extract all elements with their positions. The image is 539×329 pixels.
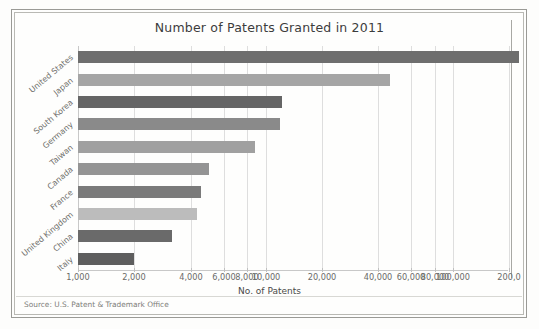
gridline <box>411 46 412 270</box>
x-tick-label: 4,000 <box>179 272 202 282</box>
x-tick-label: 6,000 <box>212 272 235 282</box>
x-tick-label: 20,000 <box>308 272 337 282</box>
gridline <box>435 46 436 270</box>
bar-canada <box>78 163 209 175</box>
gridline <box>453 46 454 270</box>
bar-france <box>78 186 201 198</box>
x-tick-label: 2,000 <box>122 272 145 282</box>
bar-italy <box>78 253 134 265</box>
bar-south-korea <box>78 96 282 108</box>
bar-china <box>78 230 172 242</box>
bar-japan <box>78 74 390 86</box>
x-tick-label: 100,000 <box>436 272 470 282</box>
x-tick-label: 1,000 <box>66 272 89 282</box>
gridline <box>509 46 510 270</box>
x-axis-title: No. of Patents <box>0 286 539 296</box>
bar-united-kingdom <box>78 208 197 220</box>
source-note: Source: U.S. Patent & Trademark Office <box>24 300 169 309</box>
bar-united-states <box>78 51 519 63</box>
x-axis-line <box>78 270 508 271</box>
chart-figure: Number of Patents Granted in 2011 1,0002… <box>0 0 539 329</box>
bar-germany <box>78 118 280 130</box>
x-tick-label: 200,0 <box>497 272 520 282</box>
chart-title: Number of Patents Granted in 2011 <box>0 20 539 35</box>
x-tick-label: 40,000 <box>364 272 393 282</box>
source-divider <box>16 296 522 297</box>
x-tick-label: 10,000 <box>252 272 281 282</box>
bar-taiwan <box>78 141 255 153</box>
